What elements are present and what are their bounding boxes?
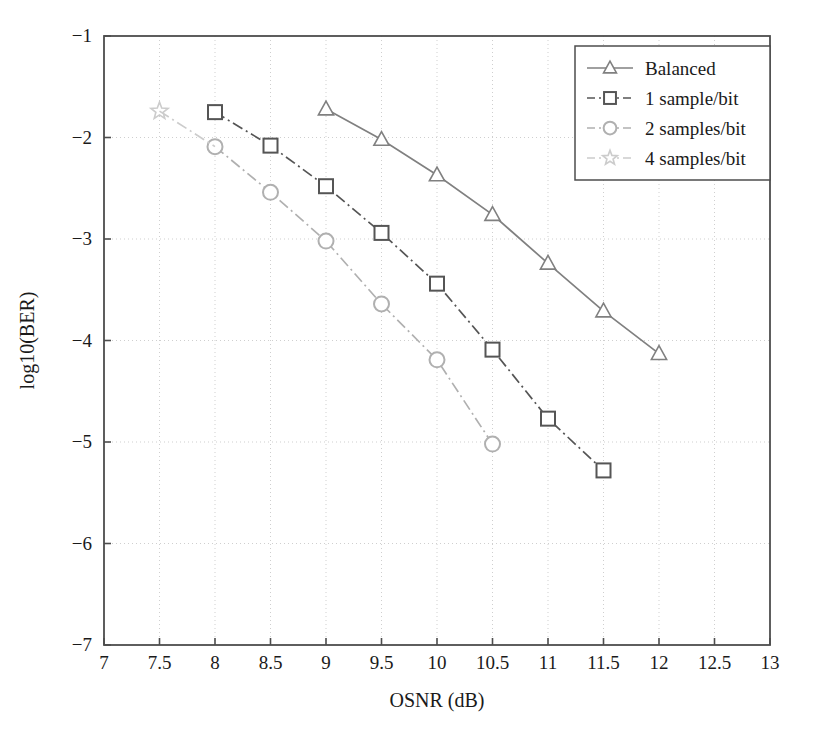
y-tick-label: −6 — [72, 533, 92, 554]
x-tick-label: 8 — [210, 652, 220, 673]
x-tick-label: 8.5 — [259, 652, 283, 673]
y-tick-label: −7 — [72, 634, 92, 655]
data-point-circle — [319, 234, 334, 249]
y-tick-label: −4 — [72, 330, 93, 351]
data-point-square — [541, 412, 555, 426]
y-tick-label: −5 — [72, 431, 92, 452]
data-point-circle — [430, 352, 445, 367]
x-tick-label: 11 — [539, 652, 557, 673]
data-point-square — [597, 463, 611, 477]
data-point-square — [208, 105, 222, 119]
x-tick-label: 10.5 — [476, 652, 509, 673]
y-tick-label: −1 — [72, 25, 92, 46]
x-axis-title: OSNR (dB) — [389, 689, 484, 712]
data-point-circle — [374, 296, 389, 311]
data-point-square — [604, 92, 616, 104]
data-point-square — [375, 226, 389, 240]
x-tick-label: 12.5 — [698, 652, 731, 673]
data-point-circle — [604, 122, 617, 135]
data-point-square — [319, 179, 333, 193]
legend: Balanced1 sample/bit2 samples/bit4 sampl… — [575, 46, 770, 180]
ber-vs-osnr-chart: 77.588.599.51010.51111.51212.513−1−2−3−4… — [0, 0, 819, 740]
legend-label: 2 samples/bit — [645, 118, 747, 139]
x-tick-label: 7 — [99, 652, 109, 673]
y-tick-label: −2 — [72, 127, 92, 148]
y-tick-label: −3 — [72, 228, 92, 249]
x-tick-label: 9 — [321, 652, 331, 673]
data-point-circle — [263, 185, 278, 200]
legend-label: 1 sample/bit — [645, 88, 739, 109]
data-point-square — [430, 277, 444, 291]
legend-label: 4 samples/bit — [645, 148, 747, 169]
x-tick-label: 13 — [761, 652, 780, 673]
x-tick-label: 12 — [650, 652, 669, 673]
chart-canvas: 77.588.599.51010.51111.51212.513−1−2−3−4… — [0, 0, 819, 740]
x-tick-label: 7.5 — [148, 652, 172, 673]
x-tick-label: 10 — [428, 652, 447, 673]
data-point-square — [264, 139, 278, 153]
y-axis-title: log10(BER) — [16, 292, 39, 390]
x-tick-label: 11.5 — [587, 652, 620, 673]
legend-label: Balanced — [645, 58, 716, 79]
data-point-square — [486, 343, 500, 357]
data-point-circle — [485, 437, 500, 452]
x-tick-label: 9.5 — [370, 652, 394, 673]
